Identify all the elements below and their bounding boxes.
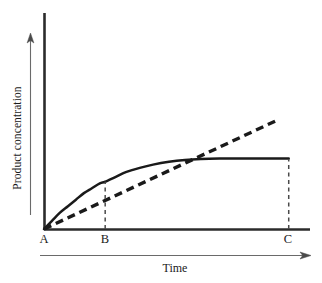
x-axis-direction-arrow	[40, 252, 311, 259]
x-tick-label-a: A	[34, 232, 54, 247]
chart-figure: Product concentration Time A B C	[0, 0, 322, 283]
initial-rate-tangent-line	[44, 120, 278, 229]
x-tick-label-b: B	[95, 232, 115, 247]
product-concentration-curve	[44, 158, 289, 229]
x-tick-label-c: C	[278, 232, 298, 247]
y-axis-direction-arrow	[27, 33, 34, 215]
y-axis-label: Product concentration	[11, 74, 23, 202]
x-axis-label: Time	[115, 261, 235, 276]
